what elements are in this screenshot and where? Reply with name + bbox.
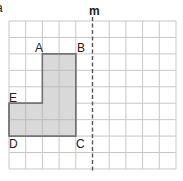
vertex-label-e: E [9, 91, 17, 105]
corner-mark: a [0, 1, 3, 15]
mirror-line-label: m [89, 4, 100, 18]
vertex-label-a: A [35, 41, 43, 55]
vertex-label-c: C [76, 137, 85, 151]
grid-diagram: a m A B E D C [0, 0, 183, 181]
vertex-label-b: B [77, 41, 85, 55]
vertex-label-d: D [9, 137, 18, 151]
